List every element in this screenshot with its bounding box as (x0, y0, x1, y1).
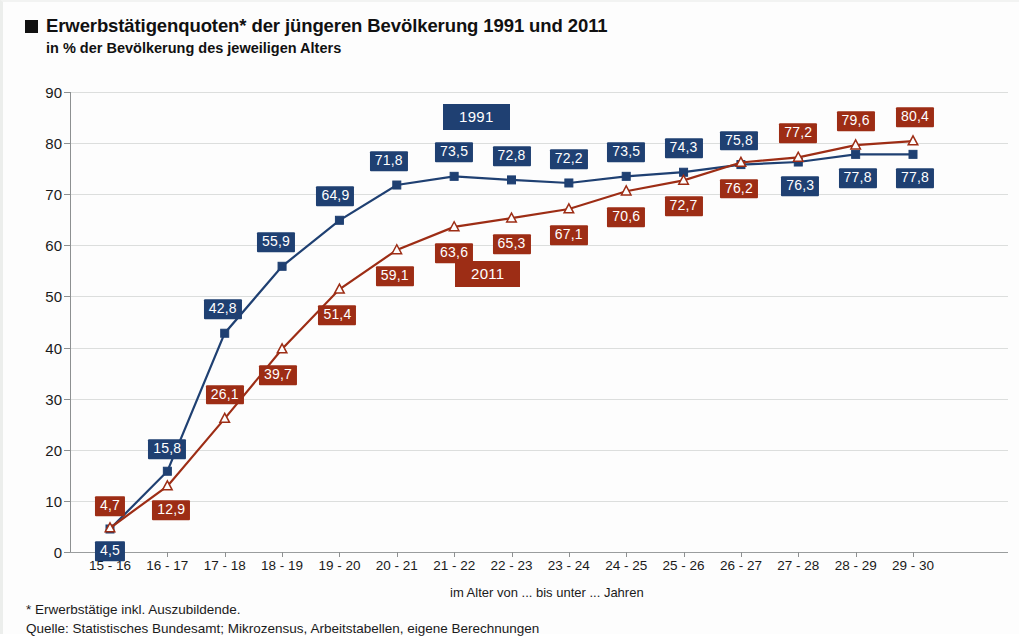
series-line-2011 (110, 141, 913, 528)
data-point-marker (278, 262, 286, 270)
legend-item-1991[interactable]: 1991 (443, 104, 510, 130)
y-axis-tick-mark (64, 450, 70, 451)
data-label: 73,5 (607, 142, 645, 162)
data-label: 67,1 (550, 225, 588, 245)
data-point-marker (450, 172, 458, 180)
x-axis-tick-mark (454, 552, 455, 557)
x-axis-tick-mark (798, 552, 799, 557)
data-label: 76,2 (720, 179, 758, 199)
data-point-marker (335, 284, 345, 293)
y-axis-tick-label: 90 (16, 84, 62, 101)
x-axis-tick-label: 20 - 21 (376, 558, 418, 573)
y-axis-tick-label: 0 (16, 544, 62, 561)
data-point-marker (163, 467, 171, 475)
x-axis-tick-mark (741, 552, 742, 557)
data-label: 77,8 (896, 169, 934, 189)
x-axis-tick-label: 19 - 20 (318, 558, 360, 573)
y-axis-tick-mark (64, 92, 70, 93)
y-axis-tick-mark (64, 194, 70, 195)
footnote-definition: * Erwerbstätige inkl. Auszubildende. (26, 600, 539, 619)
y-axis-tick-label: 60 (16, 237, 62, 254)
x-axis-tick-label: 26 - 27 (720, 558, 762, 573)
x-axis-tick-mark (569, 552, 570, 557)
x-axis-tick-label: 29 - 30 (892, 558, 934, 573)
x-axis-tick-label: 24 - 25 (605, 558, 647, 573)
data-label: 73,5 (435, 142, 473, 162)
y-axis-tick-label: 80 (16, 135, 62, 152)
data-label: 42,8 (204, 299, 242, 319)
data-point-marker (335, 216, 343, 224)
data-label: 64,9 (316, 186, 354, 206)
footnotes: * Erwerbstätige inkl. Auszubildende. Que… (26, 600, 539, 638)
data-point-marker (622, 172, 630, 180)
x-axis-tick-label: 27 - 28 (777, 558, 819, 573)
plot-area: 15 - 1616 - 1717 - 1818 - 1919 - 2020 - … (70, 92, 1008, 552)
x-axis-tick-label: 22 - 23 (490, 558, 532, 573)
x-axis-tick-mark (397, 552, 398, 557)
y-axis-tick-label: 10 (16, 492, 62, 509)
data-point-marker (508, 176, 516, 184)
data-label: 12,9 (152, 500, 190, 520)
data-point-marker (393, 181, 401, 189)
x-axis-tick-mark (856, 552, 857, 557)
x-axis-tick-mark (282, 552, 283, 557)
data-label: 79,6 (837, 111, 875, 131)
data-label: 72,2 (550, 149, 588, 169)
y-axis-tick-mark (64, 296, 70, 297)
chart-canvas: 15 - 1616 - 1717 - 1818 - 1919 - 2020 - … (3, 2, 1019, 636)
data-label: 4,7 (95, 496, 125, 516)
data-label: 77,8 (839, 169, 877, 189)
gridline (70, 552, 1008, 553)
data-label: 70,6 (607, 207, 645, 227)
y-axis-tick-mark (64, 143, 70, 144)
x-axis-tick-mark (167, 552, 168, 557)
footnote-source: Quelle: Statistisches Bundesamt; Mikroze… (26, 619, 539, 638)
y-axis-tick-mark (64, 501, 70, 502)
data-label: 72,8 (492, 146, 530, 166)
data-label: 65,3 (492, 234, 530, 254)
x-axis-note: im Alter von ... bis unter ... Jahren (450, 585, 644, 600)
y-axis-tick-mark (64, 245, 70, 246)
data-label: 72,7 (665, 197, 703, 217)
data-label: 77,2 (779, 124, 817, 144)
y-axis-tick-mark (64, 399, 70, 400)
x-axis-tick-mark (913, 552, 914, 557)
data-point-marker (565, 179, 573, 187)
data-label: 63,6 (435, 243, 473, 263)
x-axis-tick-label: 25 - 26 (663, 558, 705, 573)
data-label: 75,8 (720, 131, 758, 151)
x-axis-tick-label: 21 - 22 (433, 558, 475, 573)
data-label: 51,4 (318, 305, 356, 325)
y-axis-tick-label: 50 (16, 288, 62, 305)
y-axis-tick-label: 40 (16, 339, 62, 356)
series-line-1991 (110, 154, 913, 529)
data-label: 39,7 (259, 365, 297, 385)
x-axis-tick-mark (225, 552, 226, 557)
data-label: 4,5 (95, 541, 125, 561)
data-label: 76,3 (781, 176, 819, 196)
x-axis-tick-mark (626, 552, 627, 557)
data-point-marker (909, 150, 917, 158)
legend-item-2011[interactable]: 2011 (455, 261, 520, 287)
x-axis-tick-mark (339, 552, 340, 557)
data-label: 26,1 (206, 385, 244, 405)
data-label: 59,1 (376, 266, 414, 286)
data-label: 55,9 (257, 232, 295, 252)
data-label: 74,3 (665, 138, 703, 158)
x-axis-tick-label: 16 - 17 (146, 558, 188, 573)
y-axis-tick-label: 70 (16, 186, 62, 203)
y-axis-tick-mark (64, 552, 70, 553)
x-axis-tick-label: 17 - 18 (204, 558, 246, 573)
x-axis-tick-mark (684, 552, 685, 557)
data-label: 15,8 (148, 439, 186, 459)
data-point-marker (852, 150, 860, 158)
x-axis-tick-label: 28 - 29 (835, 558, 877, 573)
x-axis-tick-label: 18 - 19 (261, 558, 303, 573)
data-label: 71,8 (370, 151, 408, 171)
x-axis-tick-label: 23 - 24 (548, 558, 590, 573)
y-axis-tick-label: 20 (16, 441, 62, 458)
x-axis-tick-mark (512, 552, 513, 557)
series-layer (70, 92, 1008, 552)
y-axis-tick-mark (64, 348, 70, 349)
